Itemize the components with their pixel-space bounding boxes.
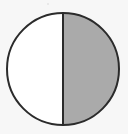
fraction-circle-figure [0, 0, 128, 134]
scan-speck-artifact [47, 3, 49, 5]
circle-half-left-unshaded [7, 13, 63, 125]
circle-half-right-shaded [63, 13, 119, 125]
fraction-circle-svg [0, 0, 128, 134]
